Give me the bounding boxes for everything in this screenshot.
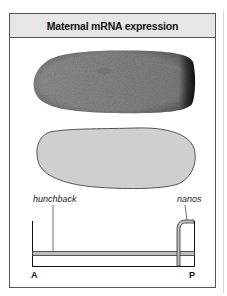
hunchback-label: hunchback <box>33 194 77 204</box>
posterior-label: P <box>189 270 195 280</box>
embryo-photo <box>34 51 196 114</box>
expression-graph <box>32 205 195 267</box>
nanos-leader <box>185 205 187 220</box>
figure-graphics <box>0 0 227 296</box>
hunchback-curve <box>33 252 195 256</box>
embryo-outline <box>37 128 195 189</box>
nanos-label: nanos <box>177 194 202 204</box>
nanos-curve <box>177 220 194 266</box>
anterior-label: A <box>31 270 38 280</box>
